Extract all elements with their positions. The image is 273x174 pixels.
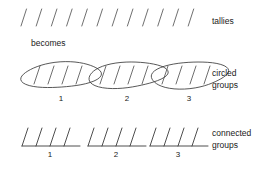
circled-group-number: 2 bbox=[120, 94, 134, 103]
tally-mark bbox=[36, 9, 42, 26]
tally-mark bbox=[82, 9, 88, 26]
tally-mark bbox=[22, 128, 28, 146]
tally-mark bbox=[188, 9, 194, 26]
tally-mark bbox=[150, 128, 156, 146]
tally-mark bbox=[64, 128, 70, 146]
tally-mark bbox=[116, 128, 122, 146]
tally-mark bbox=[62, 66, 68, 84]
tally-mark bbox=[176, 66, 182, 84]
tally-mark bbox=[178, 128, 184, 146]
tally-mark bbox=[192, 128, 198, 146]
tally-mark bbox=[97, 9, 103, 26]
tally-mark bbox=[51, 9, 57, 26]
tally-mark bbox=[112, 9, 118, 26]
tally-mark bbox=[88, 128, 94, 146]
tally-mark bbox=[50, 128, 56, 146]
tally-mark bbox=[164, 128, 170, 146]
circled-group-number: 3 bbox=[182, 94, 196, 103]
tally-mark bbox=[114, 66, 120, 84]
group-circle bbox=[21, 62, 102, 88]
connected-group-number: 2 bbox=[109, 150, 123, 159]
connected-groups-label-line2: groups bbox=[212, 140, 238, 151]
tally-mark bbox=[128, 66, 134, 84]
tally-mark bbox=[130, 128, 136, 146]
tally-mark bbox=[102, 128, 108, 146]
tally-mark bbox=[142, 66, 148, 84]
tally-mark bbox=[190, 66, 196, 84]
connected-groups-label-line1: connected bbox=[212, 128, 251, 139]
tally-mark bbox=[173, 9, 179, 26]
connected-group-number: 1 bbox=[43, 150, 57, 159]
tally-mark bbox=[21, 9, 27, 26]
circled-groups-label-line1: circled bbox=[212, 68, 237, 79]
tallies-label: tallies bbox=[212, 16, 234, 27]
tally-mark bbox=[76, 66, 82, 84]
tally-mark bbox=[36, 128, 42, 146]
tally-mark bbox=[204, 66, 210, 84]
circled-group-number: 1 bbox=[54, 94, 68, 103]
tally-mark bbox=[48, 66, 54, 84]
tally-mark bbox=[158, 9, 164, 26]
connected-group-number: 3 bbox=[171, 150, 185, 159]
tally-mark bbox=[34, 66, 40, 84]
becomes-label: becomes bbox=[31, 38, 66, 49]
tally-mark bbox=[127, 9, 132, 26]
tally-grouping-diagram: tallies becomes circled groups connected… bbox=[0, 0, 273, 174]
tally-mark bbox=[143, 9, 149, 26]
tally-mark bbox=[67, 9, 73, 26]
circled-groups-label-line2: groups bbox=[212, 80, 238, 91]
